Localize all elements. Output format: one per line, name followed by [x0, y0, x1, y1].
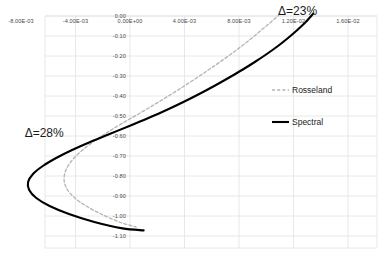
y-tick-label: -0.30 — [104, 73, 126, 79]
y-tick-label: -0.70 — [104, 153, 126, 159]
x-tick-label: -8.00E-03 — [8, 18, 33, 24]
delta-annotation: Δ=28% — [25, 126, 64, 140]
x-tick-label: 8.00E-03 — [227, 18, 251, 24]
y-tick-label: -1.10 — [104, 233, 126, 239]
x-tick-label: 4.00E-03 — [173, 18, 197, 24]
legend-label-spectral: Spectral — [292, 117, 323, 127]
legend-label-rosseland: Rosseland — [292, 85, 332, 95]
x-tick-label: -4.00E-03 — [63, 18, 88, 24]
legend-entry-spectral: Spectral — [272, 117, 323, 127]
y-tick-label: -0.80 — [104, 173, 126, 179]
y-tick-label: -0.60 — [104, 133, 126, 139]
legend-swatch-rosseland — [272, 86, 289, 94]
y-tick-label: 0.00 — [104, 13, 126, 19]
legend-swatch-spectral — [272, 118, 289, 126]
y-tick-label: -0.10 — [104, 33, 126, 39]
series-lines — [28, 14, 313, 231]
x-tick-label: 1.60E-02 — [336, 18, 360, 24]
y-tick-label: -0.40 — [104, 93, 126, 99]
series-line-spectral — [28, 14, 313, 231]
delta-annotation: Δ=23% — [278, 4, 317, 18]
y-tick-label: -0.20 — [104, 53, 126, 59]
y-tick-label: -0.90 — [104, 193, 126, 199]
y-tick-label: -0.50 — [104, 113, 126, 119]
legend-entry-rosseland: Rosseland — [272, 85, 332, 95]
x-tick-label: 1.20E-02 — [282, 18, 306, 24]
series-line-rosseland — [64, 14, 280, 227]
chart-figure: -8.00E-03-4.00E-030.00E+004.00E-038.00E-… — [0, 0, 386, 260]
y-tick-label: -1.00 — [104, 213, 126, 219]
gridlines — [45, 16, 377, 248]
